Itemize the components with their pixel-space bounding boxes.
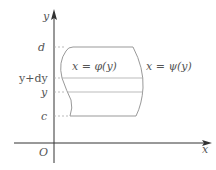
- region-top-edge: [66, 47, 133, 51]
- y-axis-label: y: [42, 10, 50, 23]
- left-curve-label: x = φ(y): [72, 60, 117, 73]
- left-curve-phi: [61, 51, 72, 116]
- tick-label-y-plus-dy: y+dy: [18, 72, 48, 85]
- right-curve-label: x = ψ(y): [146, 60, 192, 73]
- origin-label: O: [39, 146, 48, 159]
- region-diagram: y x O d y+dy y c x = φ(y) x = ψ(y): [0, 0, 216, 170]
- tick-label-c: c: [41, 110, 47, 123]
- x-axis-label: x: [202, 143, 209, 156]
- tick-label-y: y: [40, 86, 48, 99]
- right-curve-psi: [133, 47, 143, 116]
- tick-label-d: d: [38, 41, 45, 54]
